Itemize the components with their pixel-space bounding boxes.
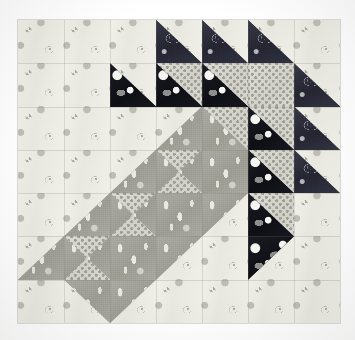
quilt-block: [18, 20, 340, 323]
patch-fabric-light: [18, 107, 64, 150]
quilt-patch: [294, 20, 340, 63]
quilt-patch: [248, 107, 294, 150]
patch-fabric-light: [64, 63, 110, 106]
quilt-patch: [156, 193, 202, 236]
quilt-patch: [294, 150, 340, 193]
quilt-patch: [110, 193, 156, 236]
patch-fabric-light: [64, 107, 110, 150]
patch-fabric-medium: [156, 193, 202, 236]
quilt-patch: [64, 236, 110, 279]
screenshot-canvas: Patchwork quilt block: [0, 0, 355, 340]
quilt-patch: [248, 20, 294, 63]
quilt-patch: [248, 63, 294, 106]
quilt-patch: [202, 20, 248, 63]
quilt-patch: [18, 280, 64, 323]
quilt-patch: [248, 150, 294, 193]
quilt-patch: [248, 193, 294, 236]
patch-fabric-light: [294, 193, 340, 236]
patch-fabric-light: [18, 63, 64, 106]
quilt-patch: [294, 63, 340, 106]
quilt-patch: [202, 107, 248, 150]
patch-fabric-light: [64, 150, 110, 193]
patch-fabric-light: [64, 20, 110, 63]
patch-fabric-medium: [202, 150, 248, 193]
quilt-patch: [294, 107, 340, 150]
quilt-patch: [64, 20, 110, 63]
patch-fabric-light: [156, 280, 202, 323]
patch-fabric-light: [18, 150, 64, 193]
patch-fabric-light: [18, 20, 64, 63]
patch-fabric-light: [294, 280, 340, 323]
quilt-patch: [110, 20, 156, 63]
quilt-patch: [110, 150, 156, 193]
quilt-patch: [202, 150, 248, 193]
quilt-patch: [202, 63, 248, 106]
quilt-patch: [110, 236, 156, 279]
quilt-patch: [202, 280, 248, 323]
quilt-patch: [156, 236, 202, 279]
quilt-patch: [110, 63, 156, 106]
patch-fabric-light: [202, 280, 248, 323]
quilt-patch: [294, 236, 340, 279]
patch-fabric-light: [248, 280, 294, 323]
quilt-patch: [248, 236, 294, 279]
quilt-patch: [156, 150, 202, 193]
quilt-patch: [110, 280, 156, 323]
quilt-patch: [64, 107, 110, 150]
patch-fabric-light: [294, 236, 340, 279]
patch-fabric-light: [18, 280, 64, 323]
patch-fabric-light: [294, 20, 340, 63]
quilt-patch: [64, 150, 110, 193]
quilt-patch: [64, 280, 110, 323]
quilt-patch: [18, 63, 64, 106]
quilt-patch: [202, 193, 248, 236]
patch-fabric-medium: [110, 236, 156, 279]
quilt-patch: [202, 236, 248, 279]
quilt-patch: [18, 236, 64, 279]
quilt-patch: [248, 280, 294, 323]
quilt-patch: [64, 63, 110, 106]
patch-fabric-light: [110, 107, 156, 150]
quilt-patch: [156, 107, 202, 150]
patch-fabric-light: [110, 20, 156, 63]
patch-fabric-light: [202, 236, 248, 279]
patch-fabric-light: [18, 193, 64, 236]
quilt-patch: [18, 107, 64, 150]
quilt-patch: [64, 193, 110, 236]
quilt-patch: [156, 20, 202, 63]
quilt-patch: [18, 20, 64, 63]
quilt-patch: [110, 107, 156, 150]
quilt-patch: [156, 280, 202, 323]
quilt-patch: [18, 150, 64, 193]
quilt-patch: [294, 193, 340, 236]
quilt-patch: [18, 193, 64, 236]
quilt-patch: [156, 63, 202, 106]
quilt-patch: [294, 280, 340, 323]
